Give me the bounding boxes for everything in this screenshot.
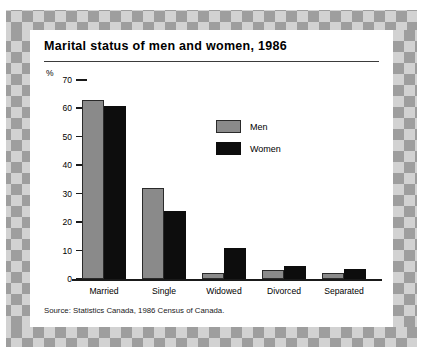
legend-label: Women <box>250 144 281 154</box>
figure: Marital status of men and women, 1986 % … <box>0 0 423 357</box>
bar-men-single <box>142 188 164 279</box>
page-margin-left <box>0 0 6 357</box>
plot-area: 706050403020100 MarriedSingleWidowedDivo… <box>44 80 382 285</box>
bar-women-married <box>104 106 126 279</box>
bar-group: Separated <box>322 80 366 279</box>
y-axis-tick-label: 60 <box>63 103 72 113</box>
bar-men-widowed <box>202 273 224 279</box>
y-axis-tick-label: 40 <box>63 160 72 170</box>
source-note: Source: Statistics Canada, 1986 Census o… <box>44 306 224 315</box>
bar-group: Widowed <box>202 80 246 279</box>
bar-groups: MarriedSingleWidowedDivorcedSeparated <box>74 80 382 281</box>
legend-swatch-women <box>216 142 241 155</box>
bar-women-divorced <box>284 266 306 279</box>
legend-swatch-men <box>216 120 241 133</box>
bar-men-divorced <box>262 270 284 279</box>
y-axis-tick-label: 20 <box>63 217 72 227</box>
y-axis-tick-label: 70 <box>63 75 72 85</box>
x-axis-category-label: Separated <box>310 286 378 296</box>
bar-men-married <box>82 100 104 279</box>
page-margin-bottom <box>0 347 423 357</box>
y-axis-tick-label: 10 <box>63 246 72 256</box>
legend-label: Men <box>250 122 268 132</box>
legend-item-men: Men <box>216 118 281 135</box>
y-axis-tick-label: 30 <box>63 189 72 199</box>
bar-men-separated <box>322 273 344 279</box>
bar-group: Married <box>82 80 126 279</box>
bar-women-single <box>164 211 186 279</box>
chart-panel: Marital status of men and women, 1986 % … <box>30 30 393 327</box>
x-axis-category-label: Divorced <box>250 286 318 296</box>
x-axis-category-label: Married <box>70 286 138 296</box>
y-axis-tick-label: 50 <box>63 132 72 142</box>
page-margin-right <box>417 0 423 357</box>
chart-title: Marital status of men and women, 1986 <box>44 39 287 53</box>
bar-women-widowed <box>224 248 246 279</box>
bar-women-separated <box>344 269 366 279</box>
legend: MenWomen <box>216 118 281 162</box>
bar-group: Single <box>142 80 186 279</box>
page-margin-top <box>0 0 423 10</box>
x-axis-category-label: Widowed <box>190 286 258 296</box>
bar-group: Divorced <box>262 80 306 279</box>
title-divider <box>44 61 379 62</box>
legend-item-women: Women <box>216 140 281 157</box>
x-axis-category-label: Single <box>130 286 198 296</box>
